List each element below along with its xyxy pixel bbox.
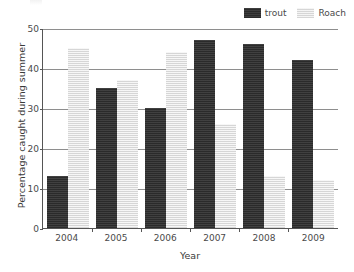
x-axis-tick-labels: 200420052006200720082009 [42, 233, 338, 243]
bar-roach-2009 [313, 180, 334, 228]
x-tick-label-2009: 2009 [289, 233, 338, 243]
bar-trout-2004 [47, 176, 68, 228]
x-tick-label-2004: 2004 [42, 233, 91, 243]
legend-label-roach: Roach [318, 8, 346, 18]
bar-trout-2009 [292, 60, 313, 228]
legend-item-roach: Roach [297, 8, 346, 18]
bar-roach-2004 [68, 48, 89, 228]
bar-roach-2006 [166, 52, 187, 228]
legend-label-trout: trout [265, 8, 287, 18]
bar-group-2006 [141, 29, 190, 228]
bar-trout-2007 [194, 40, 215, 228]
y-tick-label: 0 [33, 224, 39, 234]
x-tick-mark [288, 228, 289, 232]
bar-group-2008 [240, 29, 289, 228]
x-tick-mark [92, 228, 93, 232]
bar-group-2009 [289, 29, 338, 228]
x-tick-mark [141, 228, 142, 232]
y-tick-label: 40 [28, 64, 39, 74]
y-tick-label: 30 [28, 104, 39, 114]
dark-swatch-icon [244, 8, 261, 18]
bar-trout-2006 [145, 108, 166, 228]
x-tick-mark [190, 228, 191, 232]
bar-roach-2005 [117, 80, 138, 228]
bar-trout-2008 [243, 44, 264, 228]
y-tick-label: 10 [28, 184, 39, 194]
y-axis-title: Percentage caught during summer [16, 31, 27, 221]
y-tick-mark [40, 229, 43, 230]
y-tick-label: 50 [28, 24, 39, 34]
x-tick-label-2008: 2008 [239, 233, 288, 243]
cropped-glyph-artifact [30, 0, 42, 5]
y-tick-label: 20 [28, 144, 39, 154]
plot-area: 01020304050 [42, 29, 338, 229]
bar-group-2007 [191, 29, 240, 228]
x-tick-label-2005: 2005 [91, 233, 140, 243]
x-tick-mark [239, 228, 240, 232]
bar-group-2004 [43, 29, 92, 228]
bar-groups [43, 29, 338, 228]
x-tick-label-2007: 2007 [190, 233, 239, 243]
x-tick-label-2006: 2006 [141, 233, 190, 243]
bar-trout-2005 [96, 88, 117, 228]
bar-roach-2007 [215, 124, 236, 228]
legend-item-trout: trout [244, 8, 287, 18]
light-swatch-icon [297, 8, 314, 18]
x-axis-title: Year [42, 250, 338, 261]
bar-chart: trout Roach Percentage caught during sum… [0, 0, 354, 272]
bar-roach-2008 [264, 176, 285, 228]
bar-group-2005 [92, 29, 141, 228]
chart-legend: trout Roach [244, 6, 346, 20]
